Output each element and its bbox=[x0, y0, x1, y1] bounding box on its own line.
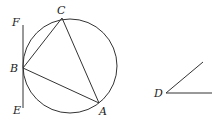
circle bbox=[23, 19, 117, 113]
label-d: D bbox=[153, 87, 163, 100]
angle-ray-diagonal bbox=[166, 62, 203, 93]
label-b: B bbox=[9, 62, 18, 75]
segment-ca bbox=[62, 18, 99, 103]
geometry-diagram: F C B E A D bbox=[0, 0, 216, 120]
label-a: A bbox=[98, 105, 107, 118]
label-f: F bbox=[11, 16, 20, 29]
label-c: C bbox=[57, 4, 66, 17]
segment-ba bbox=[23, 68, 99, 103]
label-e: E bbox=[12, 104, 21, 117]
